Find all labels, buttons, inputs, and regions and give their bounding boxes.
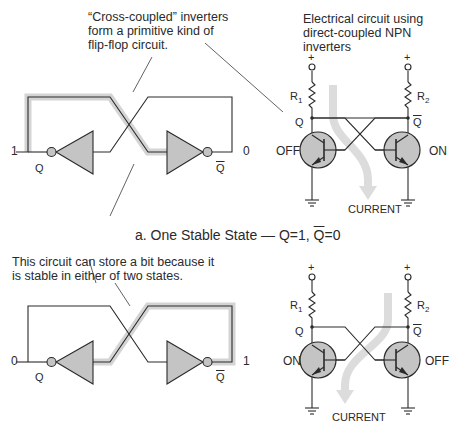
top-power-terminals	[309, 64, 411, 120]
flip-flop-diagram	[0, 0, 452, 432]
annotation-cross-coupled-line2: form a primitive kind of	[88, 24, 214, 38]
annotation-electrical-line1: Electrical circuit using	[303, 12, 423, 26]
bottom-left-value: 0	[11, 354, 18, 368]
top-plus-right: +	[404, 51, 410, 63]
bottom-power-terminals	[309, 274, 411, 329]
top-circuit-qbar-label: Q	[413, 116, 422, 128]
bottom-circuit-q-label: Q	[295, 325, 304, 337]
top-right-state: ON	[429, 144, 447, 158]
annotation-store-bit-line2: is stable in either of two states.	[12, 269, 183, 283]
caption-qbar: Q	[314, 227, 325, 243]
top-plus-left: +	[308, 51, 314, 63]
bottom-circuit-qbar-label: Q	[413, 325, 422, 337]
top-logic-wires	[16, 97, 232, 152]
bottom-transistor-right	[375, 342, 420, 378]
top-circuit-q-label: Q	[295, 116, 304, 128]
top-current-arrow	[333, 85, 377, 200]
top-left-state: OFF	[276, 144, 300, 158]
top-left-value: 1	[11, 144, 18, 158]
bottom-right-inverter	[167, 341, 212, 384]
bottom-highlight-path	[93, 306, 232, 362]
top-r1-label: R1	[290, 90, 302, 105]
bottom-q-label: Q	[35, 371, 44, 383]
bottom-right-value: 1	[243, 354, 250, 368]
bottom-right-state: OFF	[425, 354, 449, 368]
top-qbar-label: Q	[216, 162, 225, 174]
top-r2-label: R2	[417, 90, 429, 105]
bottom-plus-right: +	[404, 261, 410, 273]
top-highlight-path	[28, 97, 167, 152]
bottom-current-label: CURRENT	[332, 411, 386, 423]
annotation-store-bit-line1: This circuit can store a bit because it	[12, 255, 214, 269]
bottom-current-arrow	[336, 293, 388, 404]
top-right-inverter	[167, 131, 212, 174]
caption-prefix: a. One Stable State — Q=1,	[135, 227, 314, 243]
bottom-r2-label: R2	[417, 299, 429, 314]
top-transistor-right	[375, 132, 420, 168]
top-current-label: CURRENT	[348, 203, 402, 215]
caption-suffix: =0	[325, 227, 341, 243]
bottom-qbar-label: Q	[216, 371, 225, 383]
top-q-label: Q	[35, 162, 44, 174]
caption-stable-state: a. One Stable State — Q=1, Q=0	[135, 227, 340, 243]
bottom-plus-left: +	[308, 261, 314, 273]
bottom-r1-label: R1	[290, 299, 302, 314]
top-left-inverter	[47, 131, 93, 174]
bottom-transistor-left	[300, 342, 345, 378]
top-right-value: 0	[243, 144, 250, 158]
bottom-left-state: ON	[283, 354, 301, 368]
bottom-logic-wires	[16, 306, 232, 362]
annotation-cross-coupled-line1: “Cross-coupled” inverters	[88, 10, 228, 24]
bottom-left-inverter	[47, 341, 93, 384]
annotation-electrical-line2: direct-coupled NPN	[303, 26, 411, 40]
annotation-cross-coupled-line3: flip-flop circuit.	[88, 38, 168, 52]
